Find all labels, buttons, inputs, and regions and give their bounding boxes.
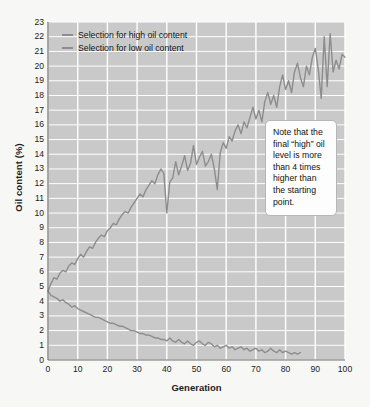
y-tick-label: 20 [16, 61, 44, 71]
y-tick-label: 0 [16, 355, 44, 365]
chart-legend: Selection for high oil content Selection… [62, 28, 187, 54]
legend-item-high: Selection for high oil content [62, 28, 187, 41]
x-tick-label: 70 [241, 364, 271, 374]
x-tick-label: 10 [63, 364, 93, 374]
y-tick-label: 9 [16, 222, 44, 232]
x-tick-label: 60 [211, 364, 241, 374]
y-tick-label: 13 [16, 163, 44, 173]
x-tick-label: 100 [330, 364, 360, 374]
x-tick-label: 80 [271, 364, 301, 374]
y-tick-label: 22 [16, 31, 44, 41]
x-tick-label: 20 [92, 364, 122, 374]
legend-swatch-high-icon [62, 34, 73, 36]
y-tick-label: 17 [16, 105, 44, 115]
y-tick-label: 2 [16, 325, 44, 335]
y-tick-label: 18 [16, 90, 44, 100]
y-tick-label: 5 [16, 281, 44, 291]
y-tick-label: 19 [16, 75, 44, 85]
legend-item-low: Selection for low oil content [62, 41, 187, 54]
y-tick-label: 7 [16, 252, 44, 262]
y-tick-label: 14 [16, 149, 44, 159]
x-axis-label: Generation [48, 382, 345, 393]
y-tick-label: 11 [16, 193, 44, 203]
y-tick-label: 15 [16, 134, 44, 144]
y-tick-label: 1 [16, 340, 44, 350]
legend-label-low: Selection for low oil content [78, 43, 184, 53]
legend-swatch-low-icon [62, 47, 73, 49]
y-tick-label: 23 [16, 17, 44, 27]
y-tick-label: 8 [16, 237, 44, 247]
x-tick-label: 30 [122, 364, 152, 374]
y-tick-label: 21 [16, 46, 44, 56]
y-tick-label: 10 [16, 208, 44, 218]
y-tick-label: 12 [16, 178, 44, 188]
y-tick-label: 4 [16, 296, 44, 306]
legend-label-high: Selection for high oil content [78, 30, 187, 40]
y-tick-label: 6 [16, 266, 44, 276]
x-tick-label: 0 [33, 364, 63, 374]
oil-content-chart-figure: Oil content (%) Generation 0123456789101… [0, 0, 370, 407]
y-tick-label: 16 [16, 119, 44, 129]
x-tick-label: 40 [152, 364, 182, 374]
y-tick-label: 3 [16, 310, 44, 320]
x-tick-label: 90 [300, 364, 330, 374]
annotation-note: Note that the final “high” oil level is … [265, 120, 337, 216]
x-tick-label: 50 [182, 364, 212, 374]
